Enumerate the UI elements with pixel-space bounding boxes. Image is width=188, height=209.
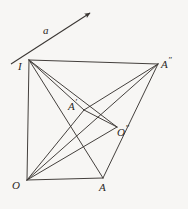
segments-group	[27, 60, 158, 180]
segment-O-A	[27, 178, 103, 180]
vertex-label-O2: O″	[117, 124, 129, 138]
segment-O-A2	[27, 64, 158, 180]
segment-I-A	[29, 60, 103, 178]
segment-A1-O2	[84, 110, 117, 127]
vertex-label-O: O	[12, 180, 20, 191]
segment-O-O2	[27, 127, 117, 180]
vertex-label-I: I	[18, 61, 22, 72]
vertex-label-A2: A″	[161, 56, 172, 70]
vertex-label-A1: A′	[68, 98, 77, 112]
segment-I-A2	[29, 60, 158, 64]
vertex-label-A: A	[99, 182, 106, 193]
prime-mark: ″	[125, 123, 129, 133]
segment-I-O2	[29, 60, 117, 127]
vector-a-arrow	[11, 13, 90, 64]
figure-canvas	[0, 0, 188, 209]
segment-O-A1	[27, 110, 84, 180]
segment-I-O	[27, 60, 29, 180]
prime-mark: ′	[75, 97, 77, 107]
vector-a-label: a	[43, 25, 49, 36]
geometry-figure: a IA″A′O″OA	[0, 0, 188, 209]
prime-mark: ″	[168, 55, 172, 65]
